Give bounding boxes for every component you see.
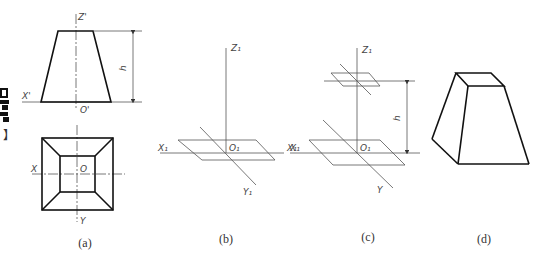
y1-label: Y₁	[243, 187, 252, 197]
z-prime-label: Z'	[77, 12, 87, 22]
y-label: Y	[80, 216, 87, 226]
edge-bottom-left	[432, 139, 458, 164]
side-bracket: 】	[3, 129, 15, 143]
caption-b: (b)	[219, 232, 233, 246]
raised-y-axis	[340, 64, 371, 95]
z1-label: Z₁	[361, 45, 372, 55]
panel-c-axes: Z₁ X₁ O₁ Y h	[289, 45, 420, 195]
o-prime-label: O'	[80, 105, 90, 115]
truncated-pyramid-diagram: 】 Z' X' O' h X O Y (a) Z₁ X₁ X₁ O₁ Y₁	[0, 0, 538, 261]
edge-tl	[42, 138, 60, 156]
caption-d: (d)	[477, 232, 491, 246]
edge-front-left	[458, 86, 468, 164]
y-axis	[323, 120, 393, 188]
o1-label: O₁	[360, 143, 371, 153]
z1-label: Z₁	[230, 43, 241, 53]
panel-a-top-view: X O Y	[30, 125, 125, 226]
x-label: X	[30, 164, 38, 174]
edge-tr	[95, 138, 113, 156]
edge-front-right	[504, 86, 529, 164]
frustum-top-face	[456, 73, 504, 86]
edge-bl	[42, 192, 60, 210]
x-prime-label: X'	[21, 91, 31, 101]
edge-br	[95, 192, 113, 210]
x1-label: X₁	[289, 143, 300, 153]
qr-code-fragment	[0, 88, 9, 122]
caption-c: (c)	[361, 230, 374, 244]
height-label: h	[118, 65, 128, 71]
o-label: O	[80, 164, 87, 174]
height-label: h	[392, 115, 402, 121]
x1-label-left: X₁	[157, 143, 168, 153]
y1-axis	[200, 127, 256, 185]
o1-label: O₁	[229, 143, 240, 153]
panel-d-frustum	[432, 73, 529, 164]
panel-b-axes: Z₁ X₁ X₁ O₁ Y₁	[157, 43, 297, 197]
edge-back-left	[432, 73, 456, 139]
y-label: Y	[377, 185, 384, 195]
panel-a-front-view: Z' X' O' h	[21, 12, 142, 115]
base-plane-parallelogram	[178, 140, 275, 160]
caption-a: (a)	[78, 236, 91, 250]
